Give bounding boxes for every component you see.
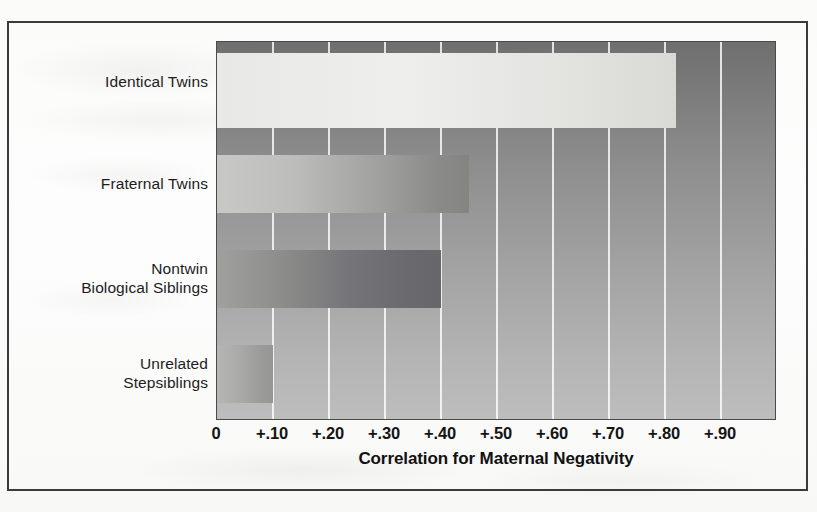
category-label-1: Identical Twins xyxy=(18,72,208,91)
bar-3 xyxy=(217,250,441,308)
category-label-line: Identical Twins xyxy=(18,72,208,91)
bar-chart: Identical TwinsFraternal TwinsNontwinBio… xyxy=(0,0,817,512)
bar-1 xyxy=(217,53,676,128)
category-label-line: Unrelated xyxy=(18,354,208,373)
category-label-line: Fraternal Twins xyxy=(18,174,208,193)
category-label-line: Biological Siblings xyxy=(18,278,208,297)
category-label-3: NontwinBiological Siblings xyxy=(18,259,208,297)
x-tick-+.20: +.20 xyxy=(312,424,344,443)
scanned-page: Identical TwinsFraternal TwinsNontwinBio… xyxy=(0,0,817,512)
bar-2 xyxy=(217,155,469,213)
x-tick-+.90: +.90 xyxy=(704,424,736,443)
category-axis-labels: Identical TwinsFraternal TwinsNontwinBio… xyxy=(16,41,208,420)
category-label-line: Stepsiblings xyxy=(18,373,208,392)
x-tick-0: 0 xyxy=(212,424,221,443)
bar-4 xyxy=(217,345,273,403)
gridline-+.90 xyxy=(720,42,722,419)
category-label-line: Nontwin xyxy=(18,259,208,278)
x-axis-tick-labels: 0+.10+.20+.30+.40+.50+.60+.70+.80+.90 xyxy=(0,424,817,448)
plot-area xyxy=(216,41,776,420)
category-label-2: Fraternal Twins xyxy=(18,174,208,193)
x-tick-+.70: +.70 xyxy=(592,424,624,443)
x-tick-+.30: +.30 xyxy=(368,424,400,443)
x-tick-+.50: +.50 xyxy=(480,424,512,443)
x-axis-title: Correlation for Maternal Negativity xyxy=(216,449,776,469)
x-tick-+.60: +.60 xyxy=(536,424,568,443)
x-tick-+.10: +.10 xyxy=(256,424,288,443)
x-tick-+.80: +.80 xyxy=(648,424,680,443)
category-label-4: UnrelatedStepsiblings xyxy=(18,354,208,392)
x-tick-+.40: +.40 xyxy=(424,424,456,443)
